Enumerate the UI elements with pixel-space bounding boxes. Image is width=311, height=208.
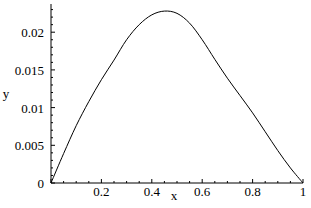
y-axis-ticks: 00.0050.010.0150.02 xyxy=(15,25,44,191)
x-axis-label: x xyxy=(171,188,178,203)
line-chart: 00.0050.010.0150.02 0.20.40.60.81 x y xyxy=(0,0,311,208)
y-tick-label: 0.005 xyxy=(15,138,44,153)
data-curve xyxy=(51,11,303,183)
y-tick-label: 0.02 xyxy=(21,25,44,40)
x-tick-label: 0.2 xyxy=(93,184,109,199)
axes xyxy=(51,4,303,183)
x-tick-label: 0.4 xyxy=(144,184,161,199)
y-tick-label: 0.01 xyxy=(21,101,44,116)
y-tick-label: 0 xyxy=(38,176,45,191)
x-tick-label: 0.6 xyxy=(194,184,211,199)
y-tick-label: 0.015 xyxy=(15,63,44,78)
x-tick-label: 0.8 xyxy=(244,184,260,199)
x-tick-label: 1 xyxy=(300,184,307,199)
x-axis-ticks: 0.20.40.60.81 xyxy=(93,184,306,199)
y-axis-label: y xyxy=(3,86,10,101)
